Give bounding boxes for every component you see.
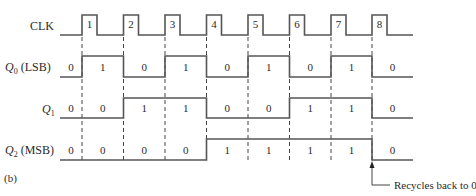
q1-label: Q1: [42, 102, 55, 118]
q0-values: 010101010: [68, 61, 396, 73]
q0-state-value: 0: [142, 61, 148, 73]
q1-state-value: 1: [349, 102, 355, 114]
q2-label: Q2 (MSB): [5, 143, 54, 159]
q2-state-value: 1: [266, 144, 272, 156]
figure-label: (b): [4, 172, 17, 185]
q0-label: Q0 (LSB): [5, 60, 51, 76]
q1-state-value: 0: [68, 102, 74, 114]
clock-pulse-number: 3: [170, 18, 176, 30]
q2-state-value: 0: [68, 144, 74, 156]
q2-state-value: 0: [142, 144, 148, 156]
q1-state-value: 0: [266, 102, 272, 114]
clock-pulse-number: 5: [253, 18, 259, 30]
q0-state-value: 1: [349, 61, 355, 73]
q0-state-value: 0: [390, 61, 396, 73]
q2-values: 000011110: [68, 144, 396, 156]
q0-waveform: [60, 56, 413, 77]
q0-state-value: 0: [68, 61, 74, 73]
q1-state-value: 1: [142, 102, 148, 114]
clock-pulse-numbers: 12345678: [87, 18, 383, 30]
q0-state-value: 1: [100, 61, 106, 73]
q0-state-value: 1: [266, 61, 272, 73]
q2-state-value: 0: [390, 144, 396, 156]
q2-state-value: 1: [349, 144, 355, 156]
q2-state-value: 0: [183, 144, 189, 156]
q0-state-value: 0: [225, 61, 231, 73]
q0-state-value: 0: [308, 61, 314, 73]
clock-pulse-number: 4: [211, 18, 217, 30]
q1-state-value: 1: [183, 102, 189, 114]
q2-state-value: 1: [308, 144, 314, 156]
q2-state-value: 0: [100, 144, 106, 156]
recycle-arrow-icon: [370, 161, 391, 185]
clock-pulse-number: 2: [128, 18, 134, 30]
clk-waveform: [60, 15, 413, 35]
recycle-annotation: Recycles back to 0: [394, 179, 476, 191]
clock-pulse-number: 8: [377, 18, 383, 30]
q0-state-value: 1: [183, 61, 189, 73]
q1-state-value: 0: [225, 102, 231, 114]
clock-pulse-number: 1: [87, 18, 93, 30]
q2-waveform: [60, 139, 413, 160]
q1-state-value: 1: [308, 102, 314, 114]
q1-state-value: 0: [390, 102, 396, 114]
q1-state-value: 0: [100, 102, 106, 114]
q1-waveform: [60, 98, 413, 118]
clock-pulse-number: 6: [294, 18, 300, 30]
clk-label: CLK: [30, 19, 54, 33]
q2-state-value: 1: [225, 144, 231, 156]
timing-diagram: CLK Q0 (LSB) Q1 Q2 (MSB) 12345678 010101…: [0, 0, 476, 196]
clock-pulse-number: 7: [336, 18, 342, 30]
q1-values: 001100110: [68, 102, 396, 114]
